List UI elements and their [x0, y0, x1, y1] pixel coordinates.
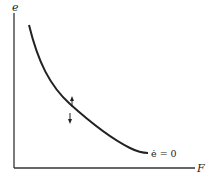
y-axis-label: e [12, 1, 19, 14]
x-axis-label: F [196, 162, 205, 175]
e-dot-zero-curve [29, 25, 148, 153]
curve-label: ė = 0 [151, 148, 177, 159]
diagram-canvas: e F ė = 0 [0, 0, 215, 181]
down-arrow-icon [68, 113, 72, 124]
